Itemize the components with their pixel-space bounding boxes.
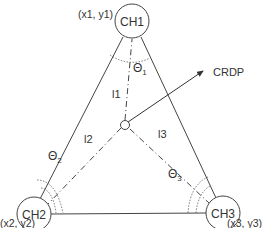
angle-label-theta2: Θ2	[48, 149, 62, 165]
crdp-triangle-diagram: CH1 (x1, y1) CH2 (x2, y2) CH3 (x3, y3) l…	[0, 0, 262, 228]
node-ch2-coord-label: (x2, y2)	[0, 217, 35, 228]
angle-label-theta1: Θ1	[133, 61, 147, 77]
node-ch1-label: CH1	[120, 15, 144, 29]
node-ch2: CH2 (x2, y2)	[0, 197, 51, 228]
distance-label-l1: l1	[112, 88, 121, 100]
edge-ch1-ch2	[40, 37, 123, 199]
crdp-center-point	[121, 121, 130, 130]
crdp-label: CRDP	[213, 66, 244, 78]
distance-label-l3: l3	[158, 128, 167, 140]
angle-label-theta3: Θ3	[168, 167, 182, 183]
angle-arc-theta3	[188, 177, 208, 213]
distance-line-l1	[125, 39, 132, 120]
distance-label-l2: l2	[84, 133, 93, 145]
distance-line-l3	[130, 129, 209, 203]
node-ch1-coord-label: (x1, y1)	[78, 8, 113, 20]
node-ch3-coord-label: (x3, y3)	[227, 217, 262, 228]
edge-ch2-ch3	[51, 213, 206, 214]
node-ch3: CH3 (x3, y3)	[206, 196, 262, 228]
node-ch1: CH1 (x1, y1)	[78, 4, 149, 38]
crdp-arrow	[128, 71, 203, 122]
angle-arcs	[37, 55, 210, 213]
